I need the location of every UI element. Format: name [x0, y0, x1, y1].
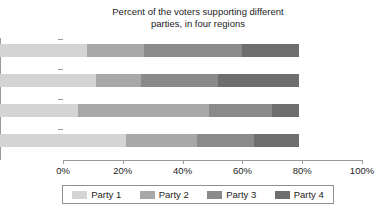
bar-segment — [0, 134, 126, 147]
bar-segment — [126, 134, 198, 147]
bar-row — [0, 44, 299, 57]
bar-segment — [144, 44, 243, 57]
legend-label: Party 1 — [91, 189, 121, 200]
stacked-bar-chart: Percent of the voters supporting differe… — [0, 0, 385, 216]
legend-item[interactable]: Party 3 — [207, 189, 256, 200]
bar-segment — [197, 134, 254, 147]
bar-segment — [242, 44, 299, 57]
bar-segment — [209, 104, 272, 117]
legend-item[interactable]: Party 1 — [72, 189, 121, 200]
x-axis-tick-label: 20% — [101, 165, 145, 176]
x-axis-tick — [242, 160, 243, 164]
x-axis-tick-label: 40% — [161, 165, 205, 176]
bar-segment — [141, 74, 219, 87]
bar-segment — [0, 104, 78, 117]
bar-segment — [0, 44, 87, 57]
bar-segment — [96, 74, 141, 87]
x-axis-tick — [183, 160, 184, 164]
legend-swatch-icon — [140, 191, 155, 199]
legend-item[interactable]: Party 4 — [275, 189, 324, 200]
x-axis-tick — [302, 160, 303, 164]
legend-label: Party 3 — [226, 189, 256, 200]
y-axis-tick — [58, 39, 63, 40]
chart-title: Percent of the voters supporting differe… — [48, 6, 348, 30]
legend-swatch-icon — [275, 191, 290, 199]
bar-segment — [0, 74, 96, 87]
y-axis-tick — [58, 129, 63, 130]
legend-swatch-icon — [72, 191, 87, 199]
bar-row — [0, 74, 299, 87]
y-axis-tick — [58, 99, 63, 100]
bar-row — [0, 134, 299, 147]
bar-row — [0, 104, 299, 117]
bar-segment — [87, 44, 144, 57]
y-axis-tick — [58, 69, 63, 70]
bar-segment — [218, 74, 299, 87]
x-axis-tick-label: 0% — [41, 165, 85, 176]
x-axis-tick-label: 100% — [340, 165, 384, 176]
bar-segment — [272, 104, 299, 117]
legend-label: Party 2 — [159, 189, 189, 200]
bar-segment — [254, 134, 299, 147]
x-axis-tick — [123, 160, 124, 164]
x-axis-tick — [362, 160, 363, 164]
legend-swatch-icon — [207, 191, 222, 199]
x-axis-tick-label: 60% — [220, 165, 264, 176]
x-axis-tick-label: 80% — [280, 165, 324, 176]
legend-item[interactable]: Party 2 — [140, 189, 189, 200]
x-axis-tick — [63, 160, 64, 164]
x-axis-line — [63, 160, 363, 161]
chart-legend: Party 1Party 2Party 3Party 4 — [62, 185, 334, 204]
bar-segment — [78, 104, 210, 117]
legend-label: Party 4 — [294, 189, 324, 200]
